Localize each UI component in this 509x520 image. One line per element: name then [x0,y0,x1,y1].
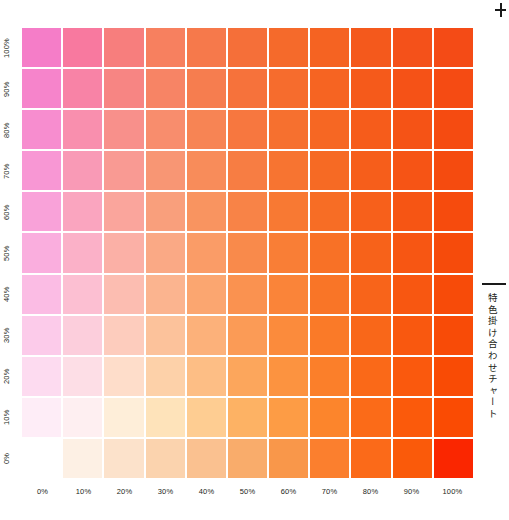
color-cell [269,398,308,437]
color-cell [187,192,226,231]
color-cell [187,28,226,67]
color-cell [310,398,349,437]
color-cell [22,439,61,478]
color-cell [393,192,432,231]
color-cell [228,316,267,355]
color-cell [63,233,102,272]
color-cell [146,69,185,108]
color-cell [22,316,61,355]
caption-rule [482,283,506,285]
color-cell [22,28,61,67]
color-cell [104,233,143,272]
chart-page: 100%90%80%70%60%50%40%30%20%10%0% 0%10%2… [0,0,509,520]
color-cell [351,110,390,149]
color-cell [434,439,473,478]
color-cell [310,28,349,67]
x-axis-tick-label: 100% [431,487,475,499]
x-axis-tick-label: 70% [308,487,352,499]
color-cell [63,357,102,396]
y-axis-tick-label: 80% [2,110,18,150]
color-cell [63,151,102,190]
color-cell [393,316,432,355]
color-mix-grid [22,28,473,478]
color-cell [104,69,143,108]
color-cell [104,316,143,355]
x-axis-tick-label: 20% [103,487,147,499]
x-axis-tick-label: 50% [226,487,270,499]
color-cell [310,110,349,149]
color-cell [63,28,102,67]
x-axis-tick-label: 60% [267,487,311,499]
color-cell [187,357,226,396]
color-cell [22,233,61,272]
color-cell [269,357,308,396]
color-cell [351,28,390,67]
color-cell [22,192,61,231]
color-cell [22,275,61,314]
color-cell [351,69,390,108]
chart-caption: 特色掛け合わせチャート [484,293,500,421]
color-cell [269,275,308,314]
x-axis-tick-label: 30% [144,487,188,499]
color-cell [269,439,308,478]
color-cell [63,275,102,314]
color-cell [228,398,267,437]
color-cell [63,439,102,478]
color-cell [146,398,185,437]
color-cell [228,439,267,478]
color-cell [146,110,185,149]
color-cell [434,110,473,149]
x-axis-tick-label: 40% [185,487,229,499]
color-cell [228,275,267,314]
color-cell [393,357,432,396]
color-cell [104,275,143,314]
y-axis-tick-label: 20% [2,356,18,396]
color-cell [22,151,61,190]
color-cell [310,357,349,396]
color-cell [146,192,185,231]
color-cell [434,275,473,314]
color-cell [104,28,143,67]
y-axis-tick-label: 10% [2,397,18,437]
color-cell [351,439,390,478]
color-cell [310,69,349,108]
color-cell [228,233,267,272]
color-cell [187,316,226,355]
color-cell [187,69,226,108]
color-cell [228,28,267,67]
color-cell [228,110,267,149]
color-cell [22,110,61,149]
y-axis-tick-label: 60% [2,192,18,232]
color-cell [228,69,267,108]
x-axis-tick-label: 80% [349,487,393,499]
color-cell [393,233,432,272]
x-axis-tick-label: 10% [62,487,106,499]
color-cell [146,439,185,478]
color-cell [146,233,185,272]
color-cell [434,233,473,272]
color-cell [104,357,143,396]
color-cell [393,398,432,437]
color-cell [351,275,390,314]
color-cell [434,316,473,355]
x-axis-tick-label: 90% [390,487,434,499]
color-cell [187,110,226,149]
color-cell [146,316,185,355]
color-cell [310,233,349,272]
color-cell [393,28,432,67]
color-cell [187,275,226,314]
color-cell [310,151,349,190]
color-cell [434,357,473,396]
color-cell [187,151,226,190]
x-axis-tick-label: 0% [21,487,65,499]
color-cell [434,28,473,67]
color-cell [393,275,432,314]
crop-mark-icon [495,3,507,17]
color-cell [310,275,349,314]
color-cell [63,69,102,108]
color-cell [310,192,349,231]
color-cell [269,110,308,149]
color-cell [351,192,390,231]
color-cell [187,398,226,437]
color-cell [104,151,143,190]
